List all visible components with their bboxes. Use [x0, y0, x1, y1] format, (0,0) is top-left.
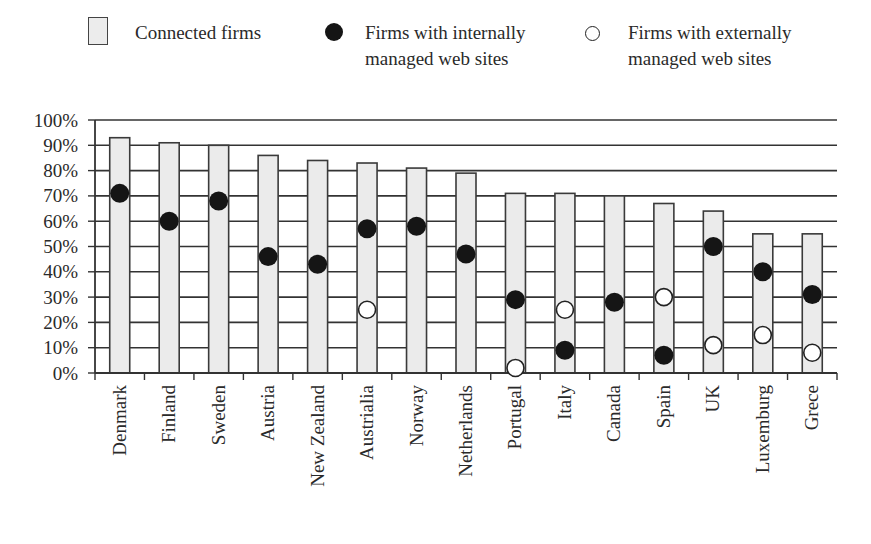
bar-canada	[604, 196, 624, 373]
marker-internal	[654, 346, 673, 365]
bar-finland	[159, 143, 179, 373]
bar-netherlands	[456, 173, 476, 373]
marker-internal	[160, 212, 179, 231]
marker-internal	[209, 191, 228, 210]
marker-external	[556, 301, 573, 318]
x-tick-label: New Zealand	[307, 385, 328, 487]
marker-internal	[308, 255, 327, 274]
marker-internal	[704, 237, 723, 256]
x-tick-label: Portugal	[504, 385, 525, 449]
y-tick-label: 50%	[43, 236, 78, 257]
bar-austrialia	[357, 163, 377, 373]
x-tick-label: Netherlands	[455, 385, 476, 477]
x-tick-label: Denmark	[109, 385, 130, 456]
marker-external	[754, 327, 771, 344]
chart-plot: 0%10%20%30%40%50%60%70%80%90%100% Denmar…	[0, 0, 871, 544]
bar-norway	[407, 168, 427, 373]
marker-internal	[110, 184, 129, 203]
y-tick-label: 30%	[43, 287, 78, 308]
marker-internal	[753, 262, 772, 281]
y-tick-label: 90%	[43, 135, 78, 156]
x-tick-label: Spain	[653, 385, 674, 429]
y-tick-label: 70%	[43, 185, 78, 206]
x-axis-labels: DenmarkFinlandSwedenAustriaNew ZealandAu…	[109, 384, 823, 486]
x-tick-label: Grece	[801, 385, 822, 430]
marker-internal	[605, 293, 624, 312]
x-tick-label: Sweden	[208, 385, 229, 446]
x-tick-label: Canada	[603, 384, 624, 442]
x-tick-label: Luxemburg	[752, 385, 773, 474]
marker-internal	[803, 285, 822, 304]
marker-internal	[555, 341, 574, 360]
x-tick-label: Austria	[257, 384, 278, 441]
marker-external	[359, 301, 376, 318]
marker-external	[655, 289, 672, 306]
marker-internal	[358, 219, 377, 238]
y-tick-label: 60%	[43, 211, 78, 232]
y-tick-label: 40%	[43, 261, 78, 282]
marker-internal	[407, 217, 426, 236]
x-tick-label: Italy	[554, 385, 575, 420]
bar-portugal	[505, 193, 525, 373]
y-tick-label: 10%	[43, 337, 78, 358]
bar-denmark	[110, 138, 130, 373]
y-tick-label: 20%	[43, 312, 78, 333]
y-axis-ticks: 0%10%20%30%40%50%60%70%80%90%100%	[34, 110, 95, 384]
marker-internal	[506, 290, 525, 309]
bar-sweden	[209, 145, 229, 373]
x-tick-label: Austrialia	[356, 384, 377, 459]
marker-internal	[457, 245, 476, 264]
marker-external	[705, 337, 722, 354]
y-tick-label: 100%	[34, 110, 79, 131]
marker-external	[507, 359, 524, 376]
marker-external	[804, 344, 821, 361]
marker-internal	[259, 247, 278, 266]
y-tick-label: 0%	[53, 363, 79, 384]
x-tick-label: Norway	[406, 385, 427, 447]
bar-luxemburg	[753, 234, 773, 373]
x-tick-label: Finland	[158, 385, 179, 444]
x-tick-label: UK	[702, 385, 723, 413]
y-tick-label: 80%	[43, 160, 78, 181]
